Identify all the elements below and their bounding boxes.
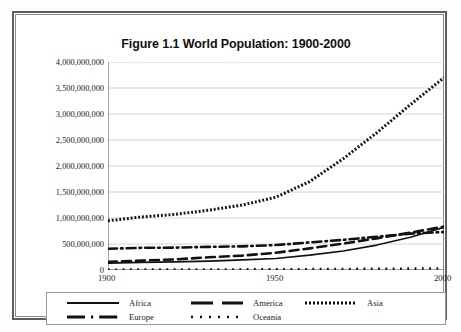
figure-inner-border: Figure 1.1 World Population: 1900-2000 4… [15,14,444,317]
legend-label: Europe [129,311,154,323]
data-series [108,78,444,270]
chart-svg [108,62,444,270]
y-tick-label: 2,000,000,000 [30,162,104,171]
legend-label: Asia [367,297,383,309]
legend-label: Oceania [253,311,281,323]
x-tick-label: 2000 [434,273,451,283]
legend-key-dotted-dense-icon [303,297,359,309]
y-tick-label: 500,000,000 [30,240,104,249]
y-tick-label: 3,000,000,000 [30,110,104,119]
chart-legend: AfricaAmericaAsiaEuropeOceania [46,292,446,325]
y-tick-label: 4,000,000,000 [30,58,104,67]
legend-key-dash-dot-icon [65,311,121,323]
legend-key-dashed-icon [189,297,245,309]
series-line-asia [108,78,444,221]
gridlines [108,62,444,270]
y-tick-label: 3,500,000,000 [30,84,104,93]
legend-key-dotted-icon [189,311,245,323]
x-tick-label: 1900 [98,273,115,283]
figure-container: Figure 1.1 World Population: 1900-2000 4… [0,0,461,332]
x-tick-label: 1950 [266,273,283,283]
chart-title: Figure 1.1 World Population: 1900-2000 [76,37,396,51]
y-tick-label: 2,500,000,000 [30,136,104,145]
legend-label: Africa [129,297,151,309]
y-tick-label: 1,000,000,000 [30,214,104,223]
y-axis-tick-labels: 4,000,000,0003,500,000,0003,000,000,0002… [30,55,104,279]
x-axis-tick-labels: 190019502000 [76,273,461,289]
y-tick-label: 1,500,000,000 [30,188,104,197]
plot-area [108,62,444,270]
legend-key-solid-icon [65,297,121,309]
legend-label: America [253,297,283,309]
